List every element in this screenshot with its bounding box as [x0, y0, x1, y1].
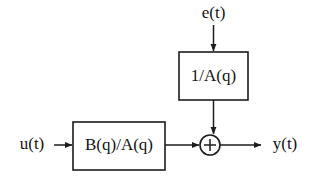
diagram-canvas: e(t) 1/A(q) u(t) B(q)/A(q) y(t): [0, 0, 309, 178]
signal-label-input: u(t): [20, 134, 45, 153]
block-plant-label: B(q)/A(q): [85, 135, 153, 154]
block-diagram: e(t) 1/A(q) u(t) B(q)/A(q) y(t): [0, 0, 309, 178]
signal-label-noise: e(t): [202, 3, 226, 22]
block-noise-filter-label: 1/A(q): [191, 66, 236, 85]
signal-label-output: y(t): [273, 134, 298, 153]
